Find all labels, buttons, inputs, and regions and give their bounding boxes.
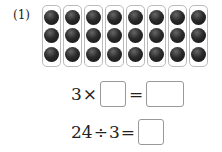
answer-box-product[interactable] [146,81,184,107]
dot-icon [128,47,143,62]
dot-icon [107,47,122,62]
dot-icon [65,10,80,25]
dot-icon [65,28,80,43]
dividend: 24 [71,122,93,142]
dot-icon [86,28,101,43]
multiplication-equation: 3 × = [71,81,184,107]
dot-icon [170,10,185,25]
factor: 3 [71,84,82,104]
answer-box-factor[interactable] [100,81,126,107]
dot-group [189,5,208,67]
dot-icon [65,47,80,62]
problem-number: (1) [13,8,30,22]
dot-icon [191,47,206,62]
divisor: 3 [109,122,120,142]
dot-group [126,5,145,67]
dot-icon [191,28,206,43]
dot-icon [44,10,59,25]
dot-icon [107,28,122,43]
dot-group [42,5,61,67]
dot-icon [170,47,185,62]
dot-group [147,5,166,67]
dot-icon [191,10,206,25]
dot-grid [42,5,208,67]
dot-icon [149,10,164,25]
dot-icon [107,10,122,25]
dot-group [105,5,124,67]
dot-icon [128,28,143,43]
divide-sign: ÷ [94,122,108,142]
times-sign: × [83,84,97,104]
dot-icon [149,28,164,43]
dot-icon [170,28,185,43]
equals-sign: = [129,84,143,104]
division-equation: 24 ÷ 3 = [71,119,164,145]
equals-sign: = [121,122,135,142]
dot-group [63,5,82,67]
dot-icon [44,47,59,62]
dot-icon [128,10,143,25]
dot-icon [86,10,101,25]
dot-icon [86,47,101,62]
dot-group [168,5,187,67]
dot-icon [149,47,164,62]
dot-group [84,5,103,67]
dot-icon [44,28,59,43]
answer-box-quotient[interactable] [138,119,164,145]
